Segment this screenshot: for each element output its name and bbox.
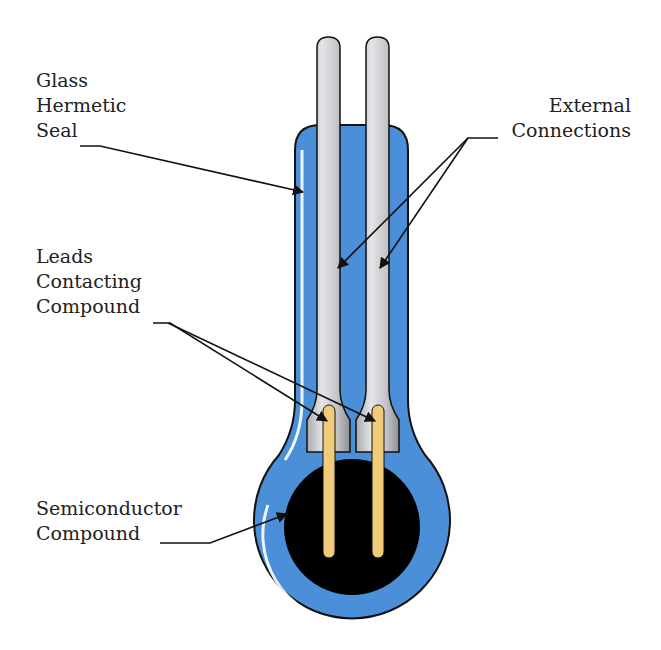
label-line: Hermetic <box>36 93 127 118</box>
lead-left <box>323 405 335 558</box>
lead-right <box>372 405 384 558</box>
label-line: External <box>512 93 631 118</box>
label-line: Compound <box>36 521 182 546</box>
label-line: Contacting <box>36 269 142 294</box>
label-external-connections: External Connections <box>512 93 631 143</box>
label-line: Compound <box>36 294 142 319</box>
thermistor-diagram: Glass Hermetic Seal External Connections… <box>0 0 661 650</box>
label-line: Glass <box>36 68 127 93</box>
label-line: Leads <box>36 244 142 269</box>
label-line: Semiconductor <box>36 496 182 521</box>
label-line: Seal <box>36 118 127 143</box>
label-line: Connections <box>512 118 631 143</box>
label-semiconductor-compound: Semiconductor Compound <box>36 496 182 546</box>
semiconductor-compound <box>284 459 420 595</box>
label-glass-hermetic-seal: Glass Hermetic Seal <box>36 68 127 143</box>
label-leads-contacting-compound: Leads Contacting Compound <box>36 244 142 319</box>
